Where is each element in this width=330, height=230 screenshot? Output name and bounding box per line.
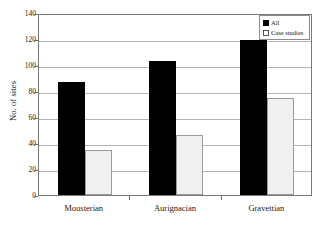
bar-chart: No. of sites 020406080100120140 Mousteri… <box>0 0 330 230</box>
x-tick-mark <box>221 196 222 200</box>
y-tick-label: 60 <box>2 114 36 122</box>
bar-all <box>58 82 85 195</box>
bar-group <box>240 15 294 195</box>
bar-all <box>240 40 267 195</box>
x-tick-label: Gravettian <box>216 203 316 213</box>
bar-group <box>149 15 203 195</box>
plot-area <box>38 14 312 196</box>
y-tick-label: 120 <box>2 36 36 44</box>
legend-swatch-all-icon <box>263 20 269 26</box>
bar-case-studies <box>176 135 203 195</box>
x-tick-mark <box>129 196 130 200</box>
bars-layer <box>39 15 311 195</box>
bar-case-studies <box>85 150 112 196</box>
y-tick-mark <box>34 196 38 197</box>
legend: All Case studies <box>259 15 310 40</box>
bar-case-studies <box>267 98 294 196</box>
y-tick-label: 0 <box>2 192 36 200</box>
y-axis-title: No. of sites <box>8 61 18 141</box>
y-tick-label: 80 <box>2 88 36 96</box>
legend-item-all: All <box>263 18 306 27</box>
legend-label-case-studies: Case studies <box>271 28 303 37</box>
y-tick-label: 40 <box>2 140 36 148</box>
bar-group <box>58 15 112 195</box>
legend-label-all: All <box>271 18 279 27</box>
bar-all <box>149 61 176 195</box>
legend-swatch-case-studies-icon <box>263 30 269 36</box>
y-tick-label: 100 <box>2 62 36 70</box>
x-tick-label: Mousterian <box>34 203 134 213</box>
legend-item-case-studies: Case studies <box>263 28 306 37</box>
x-tick-label: Aurignacian <box>125 203 225 213</box>
y-tick-label: 140 <box>2 10 36 18</box>
y-tick-label: 20 <box>2 166 36 174</box>
